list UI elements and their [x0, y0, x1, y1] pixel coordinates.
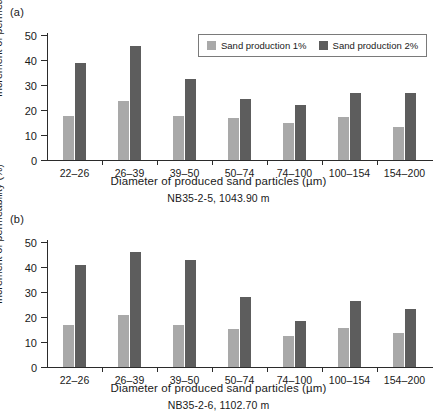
x-tick-6: [377, 367, 378, 372]
x-tick-4: [267, 367, 268, 372]
bar-22-26-series2: [75, 265, 87, 368]
panel-label-a: (a): [10, 6, 24, 18]
bar-50-74-series1: [228, 118, 240, 160]
bar-154-200-series1: [393, 333, 405, 367]
y-tick-label-10: 10: [25, 337, 41, 349]
caption-a: NB35-2-5, 1043.90 m: [0, 192, 437, 204]
y-axis-label-a: Increment of permeability (%): [0, 0, 4, 97]
legend-a: Sand production 1% Sand production 2%: [198, 34, 427, 57]
panel-label-b: (b): [10, 213, 24, 225]
x-tick-2: [157, 367, 158, 372]
y-tick-label-50: 50: [25, 237, 41, 249]
y-tick-label-20: 20: [25, 312, 41, 324]
bar-50-74-series2: [240, 99, 252, 160]
x-tick-2: [157, 160, 158, 165]
x-axis-label-b: Diameter of produced sand particles (µm): [0, 382, 437, 394]
bar-154-200-series2: [405, 309, 417, 368]
bar-100-154-series1: [338, 117, 350, 160]
caption-b: NB35-2-6, 1102.70 m: [0, 399, 437, 411]
x-tick-6: [377, 160, 378, 165]
x-tick-5: [322, 367, 323, 372]
chart-panel-b: (b) Increment of permeability (%) 010203…: [0, 207, 437, 414]
bar-26-39-series1: [118, 101, 130, 160]
bar-26-39-series2: [130, 46, 142, 160]
x-tick-3: [212, 367, 213, 372]
bar-50-74-series1: [228, 329, 240, 367]
bar-154-200-series2: [405, 93, 417, 161]
bar-26-39-series2: [130, 252, 142, 367]
bar-22-26-series2: [75, 63, 87, 160]
x-axis-label-a: Diameter of produced sand particles (µm): [0, 175, 437, 187]
legend-swatch-series2-a: [319, 41, 328, 50]
bar-74-100-series1: [283, 336, 295, 367]
bar-39-50-series1: [173, 325, 185, 368]
y-tick-label-10: 10: [25, 130, 41, 142]
bar-100-154-series2: [350, 301, 362, 367]
bar-74-100-series2: [295, 105, 307, 160]
bar-39-50-series2: [185, 260, 197, 367]
y-tick-label-30: 30: [25, 287, 41, 299]
bar-154-200-series1: [393, 127, 405, 160]
figure: (a) Increment of permeability (%) 010203…: [0, 0, 437, 414]
chart-panel-a: (a) Increment of permeability (%) 010203…: [0, 0, 437, 207]
bar-39-50-series1: [173, 116, 185, 161]
x-tick-1: [102, 367, 103, 372]
bar-74-100-series2: [295, 321, 307, 367]
bar-22-26-series1: [63, 325, 75, 368]
x-axis-line-b: [47, 367, 433, 368]
bar-100-154-series1: [338, 328, 350, 368]
bar-100-154-series2: [350, 93, 362, 161]
bar-74-100-series1: [283, 123, 295, 161]
legend-entry-series1-a: Sand production 1%: [207, 40, 307, 51]
y-tick-label-30: 30: [25, 80, 41, 92]
legend-label-series1-a: Sand production 1%: [221, 40, 307, 51]
y-tick-0: 0: [41, 367, 47, 368]
y-tick-0: 0: [41, 160, 47, 161]
x-axis-line-a: [47, 160, 433, 161]
x-tick-5: [322, 160, 323, 165]
legend-swatch-series1-a: [207, 41, 216, 50]
y-tick-label-40: 40: [25, 55, 41, 67]
x-tick-3: [212, 160, 213, 165]
x-tick-4: [267, 160, 268, 165]
bar-26-39-series1: [118, 315, 130, 367]
y-tick-label-40: 40: [25, 262, 41, 274]
bar-22-26-series1: [63, 116, 75, 160]
bar-50-74-series2: [240, 297, 252, 368]
plot-area-b: [47, 242, 432, 367]
y-tick-label-0: 0: [31, 155, 41, 167]
y-tick-label-20: 20: [25, 105, 41, 117]
legend-entry-series2-a: Sand production 2%: [319, 40, 419, 51]
y-tick-label-50: 50: [25, 30, 41, 42]
x-tick-1: [102, 160, 103, 165]
y-axis-label-b: Increment of permeability (%): [0, 164, 4, 304]
y-tick-label-0: 0: [31, 362, 41, 374]
legend-label-series2-a: Sand production 2%: [333, 40, 419, 51]
bar-39-50-series2: [185, 79, 197, 160]
